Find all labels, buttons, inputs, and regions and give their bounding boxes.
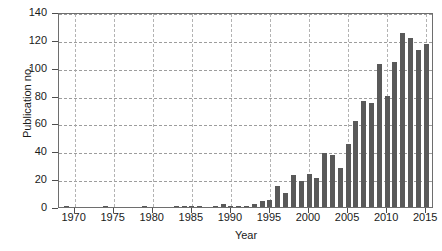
bar [314,178,319,207]
publication-count-bar-chart: Publication no. Year 020406080100120140 … [0,0,442,251]
bar [174,206,179,207]
bar [353,121,358,207]
x-axis-tick [269,208,270,213]
bar [252,204,257,207]
gridline-horizontal [59,42,432,43]
x-axis-tick-label: 2015 [403,211,442,224]
bar [244,206,249,207]
bar [64,206,69,207]
y-axis-tick-label: 80 [7,91,47,102]
x-axis-tick [191,208,192,213]
bar [377,64,382,207]
bar [346,144,351,207]
gridline-vertical [153,14,154,207]
bar [182,206,187,207]
bar [260,201,265,207]
x-axis-tick [74,208,75,213]
gridline-vertical [231,14,232,207]
bar [275,186,280,207]
gridline-horizontal [59,14,432,15]
y-axis-tick-label: 120 [7,35,47,46]
bar [408,38,413,207]
x-axis-tick [308,208,309,213]
gridline-vertical [270,14,271,207]
x-axis-tick [386,208,387,213]
bar [299,181,304,207]
bar [400,33,405,207]
bar [338,168,343,207]
bar [103,206,108,207]
bar [213,206,218,207]
x-axis-tick [347,208,348,213]
gridline-vertical [192,14,193,207]
x-axis-label: Year [58,229,434,241]
bar [416,50,421,207]
y-axis-tick-label: 100 [7,63,47,74]
x-axis-tick [230,208,231,213]
gridline-vertical [114,14,115,207]
x-axis-tick [113,208,114,213]
y-axis-label: Publication no. [21,22,33,182]
y-axis-tick-label: 20 [7,174,47,185]
y-axis-tick-label: 140 [7,7,47,18]
bar [330,155,335,207]
bar [228,206,233,207]
bar [283,193,288,207]
y-axis-tick-label: 40 [7,146,47,157]
bar [307,174,312,207]
x-axis-tick [152,208,153,213]
bar [236,206,241,207]
bar [361,101,366,207]
bar [189,206,194,207]
plot-area [58,13,433,208]
bar [221,204,226,207]
bar [291,175,296,207]
y-axis-tick [52,208,58,209]
bar [197,206,202,207]
gridline-vertical [75,14,76,207]
bar [392,62,397,207]
bar [142,206,147,207]
bar [424,44,429,207]
y-axis-tick-label: 60 [7,118,47,129]
bar [322,153,327,207]
y-axis-tick-label: 0 [7,202,47,213]
bar [369,103,374,207]
x-axis-tick [425,208,426,213]
bar [385,96,390,207]
bar [267,200,272,207]
